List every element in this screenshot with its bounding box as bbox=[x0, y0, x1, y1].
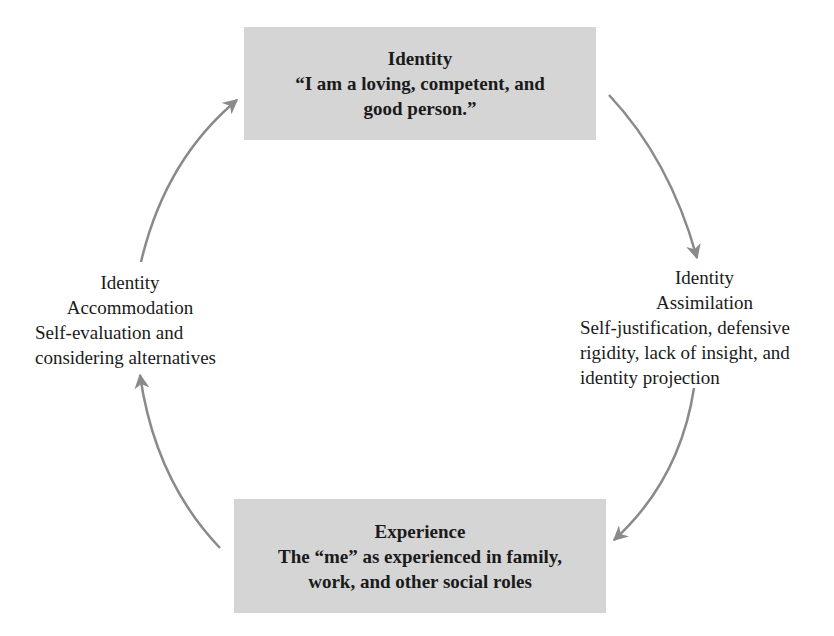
accommodation-subtitle: Accommodation bbox=[0, 295, 260, 320]
assimilation-desc: Self-justification, defensive bbox=[575, 315, 834, 340]
assimilation-title: Identity bbox=[575, 265, 834, 290]
accommodation-title: Identity bbox=[0, 270, 260, 295]
experience-box-title: Experience bbox=[375, 519, 466, 544]
identity-box: Identity “I am a loving, competent, and … bbox=[244, 27, 596, 140]
assimilation-desc: identity projection bbox=[575, 365, 834, 390]
arrow-bottom-to-left bbox=[140, 375, 220, 548]
identity-box-line: “I am a loving, competent, and bbox=[295, 71, 545, 96]
experience-box-line: The “me” as experienced in family, bbox=[278, 544, 562, 569]
accommodation-desc: Self-evaluation and bbox=[0, 320, 260, 345]
experience-box: Experience The “me” as experienced in fa… bbox=[234, 499, 606, 613]
accommodation-label: Identity Accommodation Self-evaluation a… bbox=[0, 270, 260, 370]
assimilation-label: Identity Assimilation Self-justification… bbox=[575, 265, 834, 390]
assimilation-desc: rigidity, lack of insight, and bbox=[575, 340, 834, 365]
assimilation-subtitle: Assimilation bbox=[575, 290, 834, 315]
experience-box-line: work, and other social roles bbox=[308, 569, 532, 594]
arrow-top-to-right bbox=[609, 95, 697, 258]
accommodation-desc: considering alternatives bbox=[0, 345, 260, 370]
arrow-right-to-bottom bbox=[614, 388, 694, 540]
identity-box-title: Identity bbox=[388, 46, 452, 71]
arrow-left-to-top bbox=[141, 100, 237, 262]
identity-box-line: good person.” bbox=[364, 96, 477, 121]
